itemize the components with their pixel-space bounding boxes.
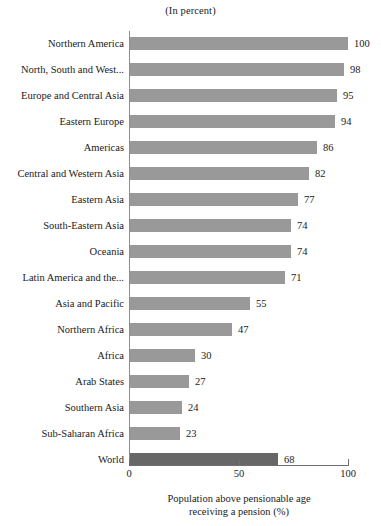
bar [130,37,348,50]
bar-value-label: 74 [297,213,308,239]
bar-track: 47 [130,317,381,343]
bar-value-label: 47 [238,317,249,343]
bar-row: Northern America100 [0,31,381,57]
bar-value-label: 95 [343,83,354,109]
bar-row: World68 [0,447,381,473]
bar-row: Americas86 [0,135,381,161]
bar-category-label: Sub-Saharan Africa [41,421,129,447]
bar-track: 82 [130,161,381,187]
bar-row: South-Eastern Asia74 [0,213,381,239]
bar-category-label: Eastern Europe [60,109,129,135]
bar-row: Arab States27 [0,369,381,395]
bar-track: 86 [130,135,381,161]
bar [130,427,180,440]
bar-value-label: 94 [341,109,352,135]
bar-row: Europe and Central Asia95 [0,83,381,109]
bar-chart: (In percent) Northern America100North, S… [0,0,381,526]
bar-value-label: 82 [315,161,326,187]
bar-track: 98 [130,57,381,83]
bar-category-label: Latin America and the... [23,265,129,291]
x-axis-title-line-2: receiving a pension (%) [129,505,349,518]
bar-track: 23 [130,421,381,447]
bar-category-label: Northern America [48,31,129,57]
bar-row: Eastern Asia77 [0,187,381,213]
bar [130,401,182,414]
bar-value-label: 71 [291,265,302,291]
bar-value-label: 27 [195,369,206,395]
bar-value-label: 30 [201,343,212,369]
bar-value-label: 24 [188,395,199,421]
bar [130,63,344,76]
plot-area: Northern America100North, South and West… [0,31,381,467]
bar-category-label: Americas [84,135,129,161]
bar [130,141,317,154]
x-tick-100 [348,459,349,466]
bar [130,115,335,128]
x-tick-label-100: 100 [340,468,356,479]
bar [130,271,285,284]
bar [130,167,309,180]
bar [130,193,298,206]
bar-track: 77 [130,187,381,213]
bar-category-label: Africa [97,343,129,369]
bar-value-label: 23 [186,421,197,447]
x-tick-50 [239,459,240,466]
bar-category-label: World [98,447,129,473]
x-tick-label-0: 0 [126,468,131,479]
bar-track: 74 [130,239,381,265]
bar-track: 94 [130,109,381,135]
x-axis-title: Population above pensionable age receivi… [129,492,349,518]
bar-row: Northern Africa47 [0,317,381,343]
bar-category-label: Europe and Central Asia [21,83,129,109]
bar-row: Eastern Europe94 [0,109,381,135]
bar-track: 30 [130,343,381,369]
bar-category-label: South-Eastern Asia [43,213,129,239]
bar [130,89,337,102]
bar [130,245,291,258]
bar-category-label: Southern Asia [65,395,129,421]
bar-row: Sub-Saharan Africa23 [0,421,381,447]
bar-track: 24 [130,395,381,421]
bar-category-label: Eastern Asia [71,187,129,213]
bar-value-label: 68 [284,447,295,473]
x-tick-0 [129,459,130,466]
bar-track: 55 [130,291,381,317]
bar [130,323,232,336]
bar-row: Latin America and the...71 [0,265,381,291]
bar-track: 100 [130,31,381,57]
bar-category-label: Northern Africa [57,317,129,343]
bar [130,349,195,362]
bar [130,297,250,310]
bar-category-label: Arab States [75,369,129,395]
bar-rows: Northern America100North, South and West… [0,31,381,473]
bar [130,375,189,388]
x-tick-label-50: 50 [234,468,245,479]
bar-category-label: Oceania [90,239,129,265]
bar-row: Southern Asia24 [0,395,381,421]
bar [130,219,291,232]
bar-track: 95 [130,83,381,109]
bar-row: Oceania74 [0,239,381,265]
bar-row: Africa30 [0,343,381,369]
bar-track: 27 [130,369,381,395]
bar-category-label: Asia and Pacific [55,291,129,317]
bar-value-label: 77 [304,187,315,213]
bar-row: North, South and West...98 [0,57,381,83]
bar-value-label: 98 [350,57,361,83]
bar-value-label: 86 [323,135,334,161]
bar-value-label: 100 [354,31,370,57]
bar-value-label: 74 [297,239,308,265]
bar-category-label: Central and Western Asia [17,161,129,187]
bar-row: Central and Western Asia82 [0,161,381,187]
bar-track: 71 [130,265,381,291]
x-axis-title-line-1: Population above pensionable age [129,492,349,505]
bar-category-label: North, South and West... [21,57,129,83]
bar-track: 74 [130,213,381,239]
bar-row: Asia and Pacific55 [0,291,381,317]
unit-note: (In percent) [0,5,381,16]
bar-value-label: 55 [256,291,267,317]
